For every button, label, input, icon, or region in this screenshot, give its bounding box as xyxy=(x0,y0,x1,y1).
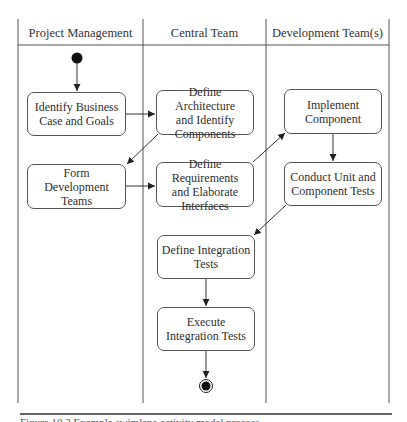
lane-title-central-team: Central Team xyxy=(143,22,266,44)
lane-title-development-teams: Development Team(s) xyxy=(266,22,389,44)
activity-form-development-teams: Form Development Teams xyxy=(27,164,126,209)
activity-implement-component: Implement Component xyxy=(284,89,382,134)
figure-caption: Figure 10.3 Example swimlane activity mo… xyxy=(20,415,259,422)
initial-node-icon xyxy=(72,53,83,64)
activity-conduct-unit-tests: Conduct Unit and Component Tests xyxy=(284,162,382,206)
final-node-icon xyxy=(200,380,213,393)
activity-define-architecture: Define Architecture and Identify Compone… xyxy=(156,90,254,135)
edge-n4-n5 xyxy=(253,133,285,162)
activity-define-integration-tests: Define Integration Tests xyxy=(157,235,255,279)
activity-define-requirements: Define Requirements and Elaborate Interf… xyxy=(156,162,254,207)
activity-identify-business-case: Identify Business Case and Goals xyxy=(27,92,126,136)
edge-n6-n7 xyxy=(254,205,286,235)
lane-title-project-management: Project Management xyxy=(18,22,143,44)
activity-execute-integration-tests: Execute Integration Tests xyxy=(157,307,255,351)
